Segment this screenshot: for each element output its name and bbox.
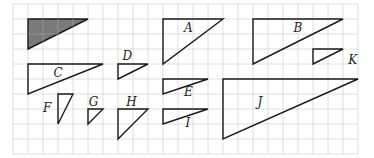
label-k: K	[347, 53, 358, 67]
triangle-grid-diagram: ABKCDEIJFGH	[0, 0, 374, 158]
triangle-g	[88, 109, 103, 124]
label-i: I	[185, 116, 191, 130]
label-f: F	[42, 101, 52, 115]
label-c: C	[54, 66, 63, 80]
label-e: E	[183, 85, 193, 99]
label-h: H	[125, 95, 137, 109]
label-a: A	[183, 21, 193, 35]
label-b: B	[293, 21, 303, 35]
label-g: G	[89, 95, 99, 109]
triangle-labels: ABKCDEIJFGH	[42, 21, 358, 130]
label-d: D	[122, 49, 133, 63]
label-j: J	[255, 95, 264, 109]
